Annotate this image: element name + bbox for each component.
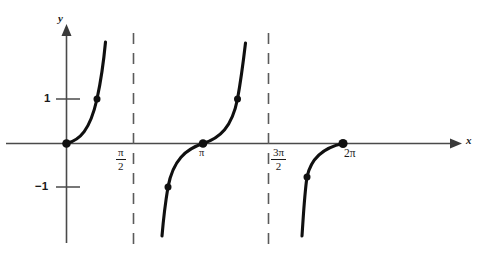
- y-tick-label-one: 1: [44, 93, 50, 105]
- point-7pi-over-4: [304, 174, 311, 181]
- curve-branch-1: [67, 42, 106, 144]
- curve-branch-3: [302, 144, 343, 237]
- point-origin: [62, 139, 71, 148]
- x-axis-label: x: [466, 135, 472, 146]
- fraction-numerator: 3π: [271, 147, 286, 160]
- x-tick-label-pi: π: [199, 148, 204, 159]
- point-pi-over-4: [94, 96, 101, 103]
- fraction-denominator: 2: [116, 160, 126, 172]
- y-tick-label-negative-one: −1: [35, 181, 48, 193]
- x-tick-label-3pi-over-2: 3π 2: [271, 147, 286, 172]
- plot-canvas: [0, 0, 490, 271]
- y-axis-label: y: [58, 13, 63, 24]
- x-axis-arrowhead: [450, 139, 462, 149]
- y-axis-arrowhead: [62, 24, 72, 36]
- fraction-numerator: π: [116, 147, 126, 160]
- x-tick-label-pi-over-2: π 2: [116, 147, 126, 172]
- tangent-graph-figure: y x 1 −1 π 2 π 3π 2 2π: [0, 0, 490, 271]
- point-5pi-over-4: [234, 96, 241, 103]
- fraction-denominator: 2: [271, 160, 286, 172]
- y-axis: [62, 24, 72, 243]
- x-tick-label-2pi: 2π: [344, 148, 356, 160]
- point-3pi-over-4: [165, 184, 172, 191]
